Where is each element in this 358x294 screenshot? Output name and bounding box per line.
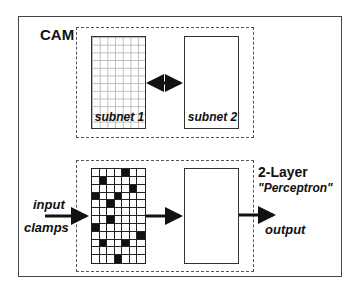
arrows-layer [0, 0, 358, 294]
